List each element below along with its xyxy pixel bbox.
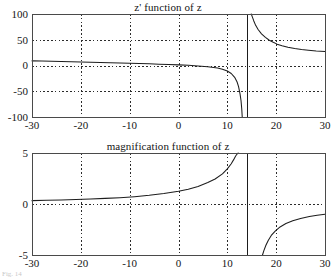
- x-axis-tick-label: -30: [25, 257, 40, 269]
- x-axis-tick-label: 30: [320, 119, 332, 131]
- data-series-curve: [262, 214, 325, 255]
- y-axis-tick-label: -50: [13, 85, 28, 97]
- x-axis-tick-label: 10: [222, 257, 234, 269]
- chart-title-z-prime: z' function of z: [0, 1, 336, 14]
- chart-svg-z-prime: -100-50050100-30-20-100102030: [0, 0, 336, 138]
- x-axis-tick-label: 0: [176, 119, 182, 131]
- x-axis-tick-label: 30: [320, 257, 332, 269]
- y-axis-tick-label: 0: [23, 198, 29, 210]
- figure-container: z' function of z -100-50050100-30-20-100…: [0, 0, 336, 278]
- chart-title-magnification: magnification function of z: [0, 140, 336, 153]
- x-axis-tick-label: -20: [73, 257, 88, 269]
- x-axis-tick-label: 10: [222, 119, 234, 131]
- data-series-curve: [32, 153, 238, 201]
- x-axis-tick-label: 20: [271, 257, 283, 269]
- data-series-curve: [32, 61, 242, 117]
- y-axis-tick-label: 0: [23, 59, 29, 71]
- x-axis-tick-label: -20: [73, 119, 88, 131]
- figure-caption: Fig. 14: [2, 270, 22, 278]
- data-series-curve: [251, 14, 325, 52]
- y-axis-tick-label: 50: [17, 34, 29, 46]
- x-axis-tick-label: -30: [25, 119, 40, 131]
- chart-svg-magnification: -505-30-20-100102030: [0, 138, 336, 278]
- x-axis-tick-label: -10: [122, 257, 137, 269]
- x-axis-tick-label: 0: [176, 257, 182, 269]
- chart-panel-magnification: magnification function of z -505-30-20-1…: [0, 138, 336, 278]
- x-axis-tick-label: -10: [122, 119, 137, 131]
- x-axis-tick-label: 20: [271, 119, 283, 131]
- chart-panel-z-prime: z' function of z -100-50050100-30-20-100…: [0, 0, 336, 138]
